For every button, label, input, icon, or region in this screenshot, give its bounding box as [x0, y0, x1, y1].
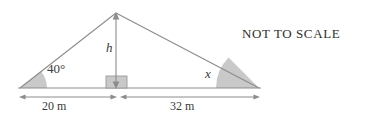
right-angle-label: x — [205, 67, 211, 80]
right-dimension-label: 32 m — [170, 100, 194, 112]
dimension-right-arrowhead-end — [254, 94, 261, 99]
dimension-left-arrowhead-start — [19, 94, 26, 99]
dimension-right-arrowhead-start — [120, 94, 127, 99]
geometry-figure: 40° x h 20 m 32 m NOT TO SCALE — [0, 0, 371, 118]
not-to-scale-note: NOT TO SCALE — [242, 27, 340, 40]
height-arrowhead-up — [113, 12, 120, 20]
left-dimension-label: 20 m — [42, 100, 66, 112]
height-label: h — [106, 41, 113, 54]
dimension-left-arrowhead-end — [111, 94, 118, 99]
left-angle-label: 40° — [47, 62, 65, 75]
right-angle-shading — [216, 58, 259, 88]
triangle-right-side — [116, 13, 259, 88]
triangle-left-side — [20, 13, 116, 88]
